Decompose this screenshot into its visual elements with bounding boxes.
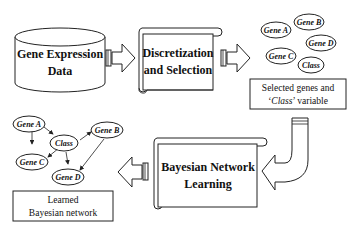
source-label-1: Gene Expression — [17, 47, 103, 61]
curved-arrow-icon — [262, 118, 308, 190]
bayesian-learning-scroll: Bayesian Network Learning — [154, 138, 267, 209]
svg-text:Class: Class — [302, 61, 320, 70]
learned-network-graph: Gene A Class Gene B Gene C Gene D — [13, 116, 123, 185]
learned-caption-1: Learned — [47, 195, 78, 205]
selected-caption-2: ‘Class’ variable — [268, 96, 328, 106]
diagram-canvas: Gene Expression Data Discretization and … — [0, 0, 357, 233]
svg-text:Gene B: Gene B — [95, 126, 120, 135]
step2-label-1: Bayesian Network — [161, 160, 255, 174]
selected-caption-1: Selected genes and — [262, 83, 335, 93]
arrow-right-icon — [106, 44, 135, 72]
bayesian-pipeline-diagram: Gene Expression Data Discretization and … — [0, 0, 357, 233]
svg-text:Gene D: Gene D — [308, 39, 333, 48]
arrow-right-icon — [221, 44, 250, 72]
source-label-2: Data — [48, 64, 73, 78]
selected-genes-group: Gene A Gene B Gene C Gene D Class — [261, 14, 336, 73]
svg-text:Gene C: Gene C — [20, 158, 45, 167]
step1-label-2: and Selection — [144, 63, 213, 77]
svg-text:Gene A: Gene A — [17, 120, 42, 129]
learned-caption-2: Bayesian network — [29, 208, 98, 218]
svg-text:Class: Class — [55, 139, 73, 148]
discretization-scroll: Discretization and Selection — [139, 28, 222, 93]
step1-label-1: Discretization — [142, 46, 213, 60]
step2-label-2: Learning — [184, 177, 231, 191]
svg-text:Gene A: Gene A — [264, 26, 289, 35]
gene-expression-data-cylinder: Gene Expression Data — [15, 28, 105, 92]
arrow-left-icon — [118, 157, 148, 187]
svg-text:Gene D: Gene D — [55, 173, 80, 182]
svg-text:Gene B: Gene B — [297, 18, 322, 27]
svg-text:Gene C: Gene C — [269, 52, 294, 61]
